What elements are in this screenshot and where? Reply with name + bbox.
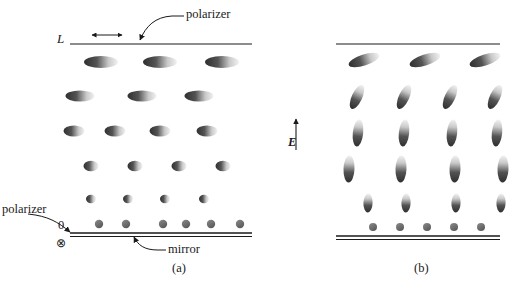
liquid-crystal-figure: [0, 0, 524, 283]
molecule-row: [363, 193, 506, 212]
panel-a: [28, 16, 252, 250]
molecule: [64, 126, 85, 137]
molecule: [347, 83, 367, 111]
molecule: [143, 56, 177, 68]
molecule: [66, 91, 95, 102]
panel-a-molecules: [64, 56, 245, 228]
molecule: [449, 155, 461, 182]
molecule: [408, 50, 442, 70]
molecule: [128, 91, 157, 102]
molecule: [128, 161, 143, 171]
molecule: [395, 155, 407, 182]
molecule: [468, 50, 502, 70]
molecule: [351, 119, 364, 147]
molecule-dot: [207, 220, 215, 228]
molecule: [172, 161, 187, 171]
molecule-dot: [122, 220, 130, 228]
polarizer-bottom-label: polarizer: [2, 203, 46, 216]
molecule: [363, 193, 373, 212]
panel-b-caption: (b): [414, 262, 429, 275]
panel-b-mirror-line: [336, 236, 500, 240]
cell-thickness-label: L: [57, 32, 64, 45]
molecule-row: [347, 83, 505, 111]
molecule: [496, 193, 506, 212]
molecule: [160, 195, 170, 203]
molecule: [440, 83, 460, 111]
molecule: [105, 126, 126, 137]
molecule-dot: [477, 223, 485, 231]
molecule-row: [86, 195, 209, 203]
molecule: [150, 126, 171, 137]
polarizer-top-leader: [140, 16, 184, 40]
molecule: [497, 155, 509, 182]
molecule: [397, 119, 410, 147]
molecule: [197, 126, 218, 137]
molecule-row: [84, 161, 231, 171]
molecule-dot: [423, 223, 431, 231]
molecule-row: [66, 91, 214, 102]
molecule-row: [351, 119, 503, 147]
polarizer-top-label: polarizer: [186, 8, 230, 21]
panel-a-caption: (a): [172, 262, 186, 275]
molecule: [451, 193, 461, 212]
molecule: [205, 56, 239, 68]
panel-b-molecules: [343, 50, 509, 231]
electric-field-label: E: [288, 136, 296, 149]
molecule: [343, 155, 355, 182]
mirror-leader: [134, 237, 166, 250]
molecule-dot: [396, 223, 404, 231]
molecule-dot: [159, 220, 167, 228]
zero-position-label: 0: [58, 219, 64, 232]
molecule-row: [343, 155, 509, 182]
molecule-dot: [369, 223, 377, 231]
molecule: [216, 161, 231, 171]
into-page-symbol-icon: ⊗: [56, 237, 66, 249]
panel-b: [296, 44, 509, 240]
molecule: [445, 119, 458, 147]
molecule-row-perpendicular: [95, 220, 244, 228]
molecule: [394, 83, 414, 111]
molecule: [86, 195, 96, 203]
molecule: [199, 195, 209, 203]
molecule: [84, 56, 118, 68]
molecule-row: [84, 56, 239, 68]
molecule-dot: [450, 223, 458, 231]
molecule: [485, 83, 505, 111]
molecule-dot: [182, 220, 190, 228]
molecule: [185, 91, 214, 102]
molecule-row: [347, 50, 502, 70]
molecule: [84, 161, 99, 171]
molecule: [490, 119, 503, 147]
mirror-label: mirror: [168, 243, 200, 256]
molecule: [401, 193, 411, 212]
molecule: [347, 50, 381, 70]
molecule: [123, 195, 133, 203]
molecule-dot: [236, 220, 244, 228]
molecule-row-perpendicular: [369, 223, 485, 231]
molecule-row: [64, 126, 218, 137]
molecule-dot: [95, 220, 103, 228]
panel-a-mirror-line: [70, 233, 252, 237]
